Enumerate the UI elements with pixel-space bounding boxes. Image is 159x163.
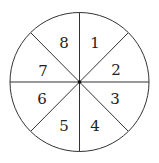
section-label: 8 <box>59 34 69 52</box>
section-label: 6 <box>37 90 47 108</box>
section-label: 4 <box>90 117 100 135</box>
section-label: 2 <box>111 61 121 79</box>
section-label: 1 <box>90 34 100 52</box>
spinner-diagram: 12345678 <box>0 0 159 163</box>
section-label: 3 <box>110 90 120 108</box>
center-pin <box>78 80 82 84</box>
section-label: 7 <box>38 62 48 80</box>
section-label: 5 <box>59 117 69 135</box>
